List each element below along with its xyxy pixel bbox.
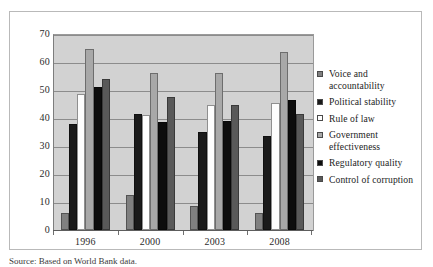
y-axis: 010203040506070 [24, 34, 50, 230]
y-axis-tick-label: 20 [40, 169, 50, 179]
bar-chart: 010203040506070 1996200020032008 [10, 12, 310, 249]
x-axis-tick-mark [183, 231, 184, 235]
bar [215, 73, 223, 230]
legend-item: Control of corruption [317, 174, 421, 186]
legend-item-label: Control of corruption [329, 174, 413, 185]
bar [231, 105, 239, 230]
bar [263, 136, 271, 230]
legend-swatch-icon [317, 176, 323, 182]
bar [150, 73, 158, 230]
legend-swatch-icon [317, 115, 323, 121]
x-axis-tick-mark [311, 231, 312, 235]
y-axis-tick-label: 40 [40, 113, 50, 123]
source-caption: Source: Based on World Bank data. [9, 256, 433, 267]
x-axis-tick-label: 2008 [269, 236, 290, 247]
x-axis: 1996200020032008 [53, 231, 312, 251]
bar [296, 114, 304, 230]
figure-frame: 010203040506070 1996200020032008 Voice a… [9, 11, 422, 250]
legend-item: Regulatory quality [317, 157, 421, 169]
bar [255, 213, 263, 230]
bar [61, 213, 69, 230]
legend-item: Rule of law [317, 113, 421, 125]
y-axis-tick-label: 70 [40, 29, 50, 39]
legend-item: Government effectiveness [317, 129, 421, 152]
bar [77, 94, 85, 230]
legend-item-label: Rule of law [329, 113, 375, 124]
y-axis-tick-label: 60 [40, 57, 50, 67]
y-axis-tick-label: 30 [40, 141, 50, 151]
bar [158, 122, 166, 230]
legend-swatch-icon [317, 132, 323, 138]
y-axis-tick-label: 10 [40, 197, 50, 207]
bar [280, 52, 288, 230]
x-axis-tick-mark [118, 231, 119, 235]
bar [271, 103, 279, 230]
bar [126, 195, 134, 230]
bar-group [61, 34, 110, 230]
x-axis-tick-mark [53, 231, 54, 235]
bar-group [126, 34, 175, 230]
x-axis-tick-label: 2003 [204, 236, 225, 247]
bar [102, 79, 110, 230]
bars-layer [53, 34, 312, 230]
legend-item: Political stability [317, 96, 421, 108]
legend-item: Voice and accountability [317, 68, 421, 91]
bar [94, 87, 102, 230]
y-axis-tick-label: 0 [45, 225, 50, 235]
bar [167, 97, 175, 230]
legend-swatch-icon [317, 71, 323, 77]
bar-group [190, 34, 239, 230]
bar [198, 132, 206, 230]
bar [69, 124, 77, 230]
legend-item-label: Regulatory quality [329, 157, 402, 168]
bar [207, 105, 215, 230]
x-axis-tick-label: 1996 [75, 236, 96, 247]
bar-group [255, 34, 304, 230]
bar [288, 100, 296, 230]
bar [190, 206, 198, 230]
legend-item-label: Government effectiveness [329, 129, 380, 152]
bar [85, 49, 93, 230]
legend-item-label: Voice and accountability [329, 68, 385, 91]
legend-item-label: Political stability [329, 96, 396, 107]
x-axis-tick-mark [247, 231, 248, 235]
chart-legend: Voice and accountabilityPolitical stabil… [317, 68, 421, 198]
y-axis-tick-label: 50 [40, 85, 50, 95]
bar [142, 115, 150, 230]
legend-swatch-icon [317, 160, 323, 166]
legend-swatch-icon [317, 99, 323, 105]
bar [223, 121, 231, 230]
bar [134, 114, 142, 230]
x-axis-tick-label: 2000 [140, 236, 161, 247]
